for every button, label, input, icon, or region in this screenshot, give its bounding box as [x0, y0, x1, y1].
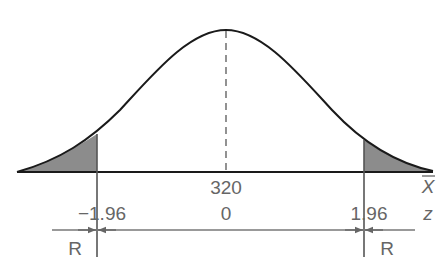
right-rejection-region-shade: [364, 140, 433, 172]
left-region-label: R: [68, 238, 82, 259]
mean-value-label: 320: [210, 177, 242, 198]
right-critical-label: 1.96: [351, 203, 388, 224]
z-axis-label: z: [422, 203, 433, 224]
z-zero-label: 0: [221, 203, 232, 224]
x-bar-axis-label: X: [421, 176, 436, 197]
right-region-label: R: [380, 238, 394, 259]
diagram-svg: 320 0 −1.96 1.96 X z R R: [0, 0, 442, 279]
left-critical-label: −1.96: [78, 203, 126, 224]
normal-curve-diagram: 320 0 −1.96 1.96 X z R R: [0, 0, 442, 279]
